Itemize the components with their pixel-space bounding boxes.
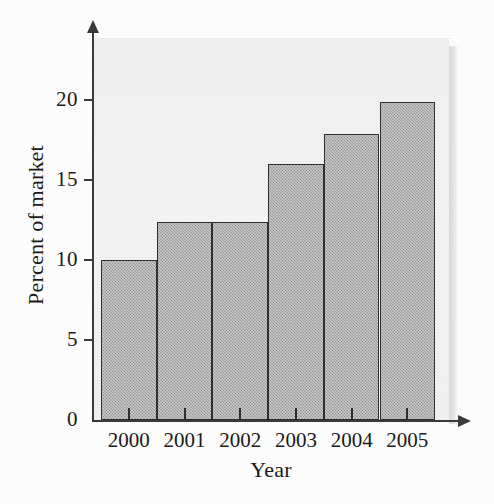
x-tick-mark-2005 <box>406 408 408 420</box>
bar-chart-figure: 05101520 200020012002200320042005 Percen… <box>0 0 494 504</box>
x-axis-arrowhead-icon <box>458 415 471 427</box>
x-axis-line <box>92 420 460 422</box>
y-tick-mark-15 <box>84 179 94 181</box>
bar-2005 <box>380 102 436 420</box>
x-tick-mark-2004 <box>351 408 353 420</box>
y-tick-mark-10 <box>84 259 94 261</box>
y-tick-label-0: 0 <box>34 409 78 430</box>
bar-2002 <box>212 222 268 420</box>
x-axis-title: Year <box>93 458 449 482</box>
bar-2004 <box>324 134 380 420</box>
bar-2003 <box>268 164 324 420</box>
x-tick-mark-2003 <box>295 408 297 420</box>
x-tick-mark-2001 <box>184 408 186 420</box>
y-axis-line <box>92 30 94 422</box>
y-tick-mark-20 <box>84 99 94 101</box>
x-tick-label-2005: 2005 <box>370 428 444 452</box>
x-tick-mark-2002 <box>239 408 241 420</box>
y-axis-arrowhead-icon <box>87 20 99 33</box>
bar-2001 <box>157 222 213 420</box>
y-axis-title: Percent of market <box>24 85 48 365</box>
x-tick-mark-2000 <box>128 408 130 420</box>
y-tick-mark-5 <box>84 339 94 341</box>
bar-2000 <box>101 260 157 420</box>
